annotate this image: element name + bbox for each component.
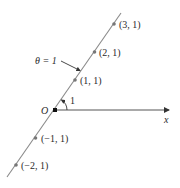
point-rneg2: [14, 163, 18, 167]
angle-label: 1: [70, 95, 75, 106]
angle-arc: [62, 100, 68, 110]
point-label-r2: (2, 1): [99, 47, 121, 59]
point-r3: [112, 22, 116, 26]
point-label-r3: (3, 1): [119, 19, 141, 31]
theta-line: [7, 13, 121, 177]
point-rneg1: [34, 136, 38, 140]
point-label-rneg2: (−2, 1): [21, 160, 48, 172]
polar-diagram: (3, 1) (2, 1) (1, 1) (−1, 1) (−2, 1) θ =…: [0, 0, 180, 188]
point-r1: [73, 78, 77, 82]
point-label-rneg1: (−1, 1): [41, 133, 68, 145]
theta-equation-label: θ = 1: [35, 55, 57, 66]
origin-label: O: [41, 105, 48, 116]
origin-point: [53, 108, 57, 112]
point-r2: [93, 50, 97, 54]
axis-label: x: [163, 114, 169, 125]
point-label-r1: (1, 1): [80, 75, 102, 87]
label-pointer-arrow: [61, 61, 80, 71]
